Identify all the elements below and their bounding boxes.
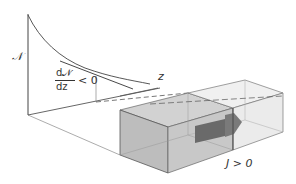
gradient-relation: < 0 [78,74,98,87]
x-axis-label: z [158,70,164,83]
flux-label: J > 0 [226,157,252,170]
diffusion-diagram: 𝒩 z d𝒩 dz < 0 J > 0 [0,0,296,184]
gradient-label: d𝒩 dz < 0 [54,67,104,97]
gradient-denominator: dz [56,81,68,92]
y-axis-label: 𝒩 [12,50,23,63]
gradient-numerator: d𝒩 [56,67,72,79]
z-axis-end [120,88,158,96]
